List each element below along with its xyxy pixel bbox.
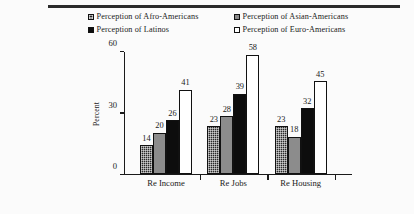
bar[interactable] [220,116,233,173]
bar-value-label: 18 [290,126,298,134]
bar[interactable] [301,108,314,174]
bar-group-bars: 23283958 [207,51,259,174]
legend-item-latinos: Perception of Latinos [88,25,169,35]
y-tick-label: 0 [113,162,117,171]
x-axis-category-label: Re Housing [280,178,321,188]
bar-value-label: 23 [210,116,218,124]
chart-legend: Perception of Afro-Americans Perception … [88,12,356,38]
legend-label-euro-americans: Perception of Euro-Americans [243,25,346,35]
bar-slot: 58 [246,51,259,174]
bar[interactable] [153,133,166,174]
legend-label-afro-americans: Perception of Afro-Americans [97,12,199,22]
legend-swatch-asian-americans [234,14,240,20]
bar-group: 14202641Re Income [140,51,192,174]
bar-value-label: 45 [316,71,324,79]
legend-item-afro-americans: Perception of Afro-Americans [88,12,198,22]
bar-slot: 28 [220,51,233,174]
x-axis-category-label: Re Income [147,178,184,188]
bar-slot: 41 [179,51,192,174]
bar-slot: 18 [288,51,301,174]
bar[interactable] [233,94,246,174]
bar-value-label: 14 [142,135,150,143]
bar[interactable] [288,137,301,174]
legend-label-asian-americans: Perception of Asian-Americans [243,12,349,22]
bar-slot: 39 [233,51,246,174]
plot-area: Percent 03060 14202641Re Income23283958R… [124,52,352,175]
bar-group-bars: 23183245 [275,51,327,174]
bar-slot: 23 [275,51,288,174]
legend-swatch-afro-americans [88,14,94,20]
bar-value-label: 26 [168,110,176,118]
bar-group: 23183245Re Housing [275,51,327,174]
legend-swatch-euro-americans [234,27,240,33]
bar[interactable] [140,145,153,174]
bar[interactable] [166,120,179,173]
bar-value-label: 23 [277,116,285,124]
bar-value-label: 58 [249,44,257,52]
x-tick-mark [267,175,268,180]
y-axis-title: Percent [92,101,101,125]
bar-value-label: 28 [223,106,231,114]
top-horizontal-rule [48,5,400,8]
bar-slot: 23 [207,51,220,174]
y-tick-label: 60 [108,39,117,48]
bar-slot: 14 [140,51,153,174]
legend-swatch-latinos [88,27,94,33]
bar-value-label: 20 [155,122,163,130]
bar-group: 23283958Re Jobs [207,51,259,174]
x-axis [124,174,352,175]
bar-value-label: 39 [236,83,244,91]
x-tick-mark [200,175,201,180]
bar-slot: 32 [301,51,314,174]
bar-value-label: 41 [181,79,189,87]
legend-item-asian-americans: Perception of Asian-Americans [234,12,348,22]
x-tick-mark [335,175,336,180]
bar-value-label: 32 [303,98,311,106]
y-tick-mark [120,112,125,113]
bar[interactable] [207,126,220,173]
y-tick-mark [120,51,125,52]
bar-slot: 45 [314,51,327,174]
bar[interactable] [246,55,259,174]
bar[interactable] [275,126,288,173]
bar-slot: 26 [166,51,179,174]
legend-item-euro-americans: Perception of Euro-Americans [234,25,345,35]
bar[interactable] [314,81,327,173]
legend-label-latinos: Perception of Latinos [97,25,170,35]
y-tick-mark [120,174,125,175]
y-axis [124,52,125,175]
x-axis-category-label: Re Jobs [220,178,247,188]
y-tick-label: 30 [108,101,117,110]
bar-slot: 20 [153,51,166,174]
bar[interactable] [179,90,192,174]
bar-chart-figure: Perception of Afro-Americans Perception … [0,0,414,214]
bar-group-bars: 14202641 [140,51,192,174]
